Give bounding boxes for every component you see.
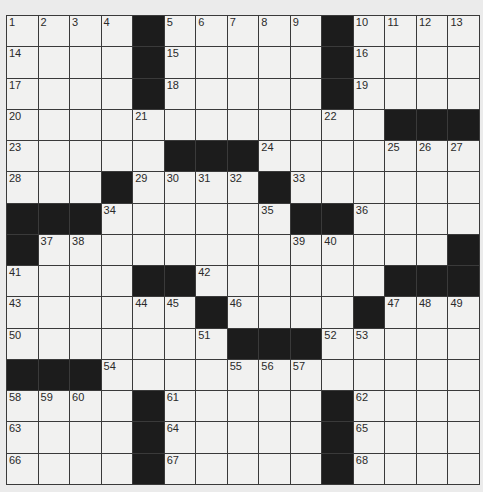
grid-cell[interactable] <box>228 79 259 109</box>
grid-cell[interactable] <box>448 329 479 359</box>
grid-cell[interactable]: 16 <box>354 47 385 77</box>
grid-cell[interactable] <box>259 297 290 327</box>
grid-cell[interactable] <box>322 141 353 171</box>
grid-cell[interactable]: 42 <box>196 266 227 296</box>
grid-cell[interactable] <box>322 360 353 390</box>
grid-cell[interactable] <box>354 141 385 171</box>
grid-cell[interactable] <box>228 204 259 234</box>
grid-cell[interactable]: 64 <box>165 422 196 452</box>
grid-cell[interactable]: 19 <box>354 79 385 109</box>
grid-cell[interactable] <box>259 47 290 77</box>
grid-cell[interactable] <box>70 141 101 171</box>
grid-cell[interactable] <box>448 454 479 484</box>
grid-cell[interactable] <box>39 454 70 484</box>
grid-cell[interactable] <box>102 454 133 484</box>
grid-cell[interactable] <box>102 235 133 265</box>
grid-cell[interactable]: 28 <box>7 172 38 202</box>
grid-cell[interactable] <box>102 422 133 452</box>
grid-cell[interactable] <box>354 235 385 265</box>
grid-cell[interactable] <box>259 110 290 140</box>
grid-cell[interactable] <box>70 266 101 296</box>
grid-cell[interactable] <box>39 79 70 109</box>
grid-cell[interactable] <box>102 329 133 359</box>
grid-cell[interactable]: 21 <box>133 110 164 140</box>
grid-cell[interactable]: 17 <box>7 79 38 109</box>
grid-cell[interactable]: 38 <box>70 235 101 265</box>
grid-cell[interactable]: 62 <box>354 391 385 421</box>
grid-cell[interactable]: 1 <box>7 16 38 46</box>
grid-cell[interactable]: 30 <box>165 172 196 202</box>
grid-cell[interactable] <box>385 360 416 390</box>
grid-cell[interactable]: 39 <box>291 235 322 265</box>
grid-cell[interactable] <box>102 266 133 296</box>
grid-cell[interactable]: 3 <box>70 16 101 46</box>
grid-cell[interactable] <box>259 391 290 421</box>
grid-cell[interactable] <box>354 110 385 140</box>
grid-cell[interactable] <box>228 422 259 452</box>
grid-cell[interactable]: 5 <box>165 16 196 46</box>
grid-cell[interactable] <box>354 266 385 296</box>
grid-cell[interactable] <box>39 266 70 296</box>
grid-cell[interactable]: 4 <box>102 16 133 46</box>
grid-cell[interactable] <box>385 79 416 109</box>
grid-cell[interactable]: 25 <box>385 141 416 171</box>
grid-cell[interactable] <box>133 329 164 359</box>
grid-cell[interactable] <box>259 266 290 296</box>
grid-cell[interactable]: 49 <box>448 297 479 327</box>
grid-cell[interactable] <box>196 47 227 77</box>
grid-cell[interactable] <box>259 422 290 452</box>
grid-cell[interactable] <box>417 329 448 359</box>
grid-cell[interactable] <box>102 391 133 421</box>
grid-cell[interactable] <box>291 110 322 140</box>
grid-cell[interactable]: 61 <box>165 391 196 421</box>
grid-cell[interactable]: 8 <box>259 16 290 46</box>
grid-cell[interactable]: 35 <box>259 204 290 234</box>
grid-cell[interactable] <box>102 297 133 327</box>
grid-cell[interactable]: 31 <box>196 172 227 202</box>
grid-cell[interactable]: 54 <box>102 360 133 390</box>
grid-cell[interactable]: 60 <box>70 391 101 421</box>
grid-cell[interactable] <box>354 172 385 202</box>
grid-cell[interactable]: 11 <box>385 16 416 46</box>
grid-cell[interactable]: 27 <box>448 141 479 171</box>
grid-cell[interactable]: 26 <box>417 141 448 171</box>
grid-cell[interactable] <box>448 204 479 234</box>
grid-cell[interactable] <box>354 360 385 390</box>
grid-cell[interactable] <box>165 235 196 265</box>
grid-cell[interactable]: 57 <box>291 360 322 390</box>
grid-cell[interactable]: 51 <box>196 329 227 359</box>
grid-cell[interactable] <box>196 110 227 140</box>
grid-cell[interactable] <box>259 79 290 109</box>
grid-cell[interactable] <box>196 391 227 421</box>
grid-cell[interactable] <box>322 297 353 327</box>
grid-cell[interactable] <box>385 329 416 359</box>
grid-cell[interactable] <box>291 79 322 109</box>
grid-cell[interactable]: 6 <box>196 16 227 46</box>
grid-cell[interactable] <box>291 391 322 421</box>
grid-cell[interactable] <box>291 297 322 327</box>
grid-cell[interactable] <box>39 141 70 171</box>
grid-cell[interactable] <box>385 235 416 265</box>
grid-cell[interactable] <box>291 454 322 484</box>
grid-cell[interactable]: 56 <box>259 360 290 390</box>
grid-cell[interactable]: 53 <box>354 329 385 359</box>
grid-cell[interactable] <box>196 454 227 484</box>
grid-cell[interactable]: 44 <box>133 297 164 327</box>
grid-cell[interactable] <box>417 454 448 484</box>
grid-cell[interactable] <box>165 329 196 359</box>
grid-cell[interactable] <box>165 110 196 140</box>
grid-cell[interactable] <box>228 391 259 421</box>
grid-cell[interactable] <box>385 47 416 77</box>
grid-cell[interactable] <box>291 422 322 452</box>
grid-cell[interactable] <box>165 204 196 234</box>
grid-cell[interactable] <box>385 204 416 234</box>
grid-cell[interactable] <box>196 422 227 452</box>
grid-cell[interactable] <box>417 360 448 390</box>
grid-cell[interactable]: 40 <box>322 235 353 265</box>
grid-cell[interactable]: 46 <box>228 297 259 327</box>
grid-cell[interactable] <box>70 297 101 327</box>
grid-cell[interactable] <box>291 47 322 77</box>
grid-cell[interactable]: 18 <box>165 79 196 109</box>
grid-cell[interactable]: 63 <box>7 422 38 452</box>
grid-cell[interactable] <box>133 141 164 171</box>
